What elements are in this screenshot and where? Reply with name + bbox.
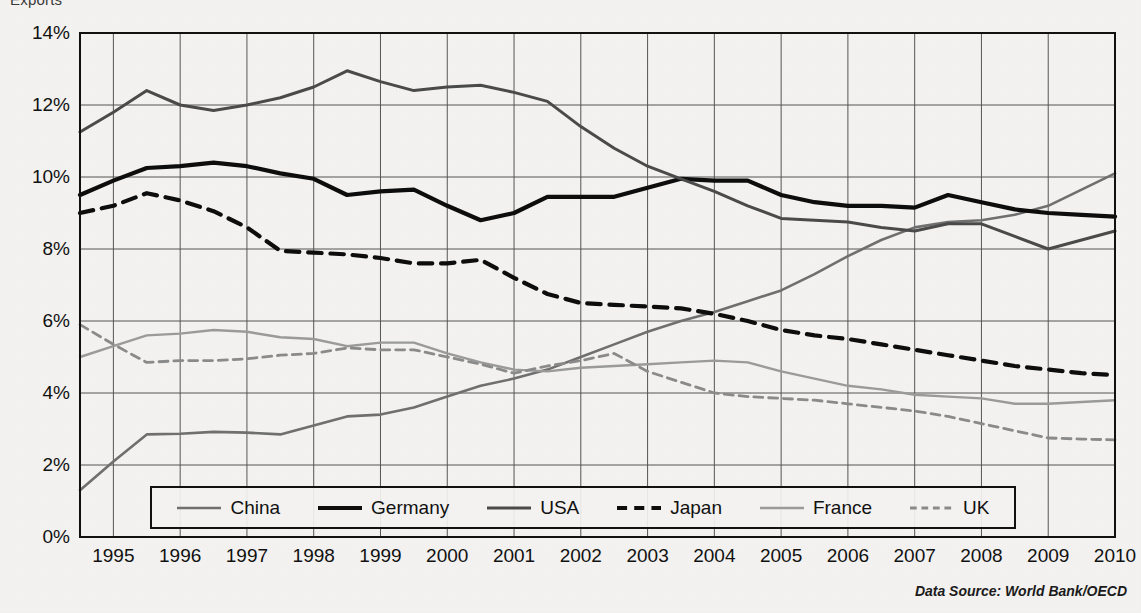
legend-item-france[interactable]: France (759, 497, 872, 519)
x-axis-tick-label: 2004 (693, 545, 735, 567)
legend-swatch-germany-icon (317, 502, 363, 514)
legend-item-uk[interactable]: UK (909, 497, 989, 519)
x-axis-tick-label: 2008 (960, 545, 1002, 567)
x-axis-tick-label: 1998 (293, 545, 335, 567)
plot-border (80, 33, 1115, 537)
legend-label: Japan (670, 497, 722, 519)
legend-swatch-france-icon (759, 502, 805, 514)
x-axis-tick-label: 2000 (426, 545, 468, 567)
x-axis-tick-label: 2001 (493, 545, 535, 567)
x-axis: 1995199619971998199920002001200220032004… (0, 545, 1141, 573)
legend-item-china[interactable]: China (176, 497, 280, 519)
legend-swatch-usa-icon (486, 502, 532, 514)
x-axis-tick-label: 2009 (1027, 545, 1069, 567)
legend-item-germany[interactable]: Germany (317, 497, 449, 519)
x-axis-tick-label: 2002 (560, 545, 602, 567)
series-line-uk (80, 325, 1115, 440)
legend-swatch-china-icon (176, 502, 222, 514)
x-axis-tick-label: 1999 (359, 545, 401, 567)
legend-label: France (813, 497, 872, 519)
data-source-caption: Data Source: World Bank/OECD (915, 583, 1127, 599)
gridlines (80, 33, 1115, 537)
x-axis-tick-label: 2006 (827, 545, 869, 567)
legend-label: China (230, 497, 280, 519)
x-axis-tick-label: 1997 (226, 545, 268, 567)
legend-swatch-uk-icon (909, 502, 955, 514)
x-axis-tick-label: 2010 (1094, 545, 1136, 567)
x-axis-tick-label: 2007 (894, 545, 936, 567)
legend: ChinaGermanyUSAJapanFranceUK (150, 486, 1016, 529)
x-axis-tick-label: 2005 (760, 545, 802, 567)
x-axis-tick-label: 1995 (92, 545, 134, 567)
legend-item-usa[interactable]: USA (486, 497, 579, 519)
legend-item-japan[interactable]: Japan (616, 497, 722, 519)
exports-share-line-chart: Exports 0%2%4%6%8%10%12%14% 199519961997… (0, 0, 1141, 613)
legend-label: UK (963, 497, 989, 519)
x-axis-tick-label: 1996 (159, 545, 201, 567)
legend-label: USA (540, 497, 579, 519)
legend-swatch-japan-icon (616, 502, 662, 514)
legend-label: Germany (371, 497, 449, 519)
series-line-germany (80, 163, 1115, 221)
series-lines (80, 71, 1115, 490)
x-axis-tick-label: 2003 (626, 545, 668, 567)
